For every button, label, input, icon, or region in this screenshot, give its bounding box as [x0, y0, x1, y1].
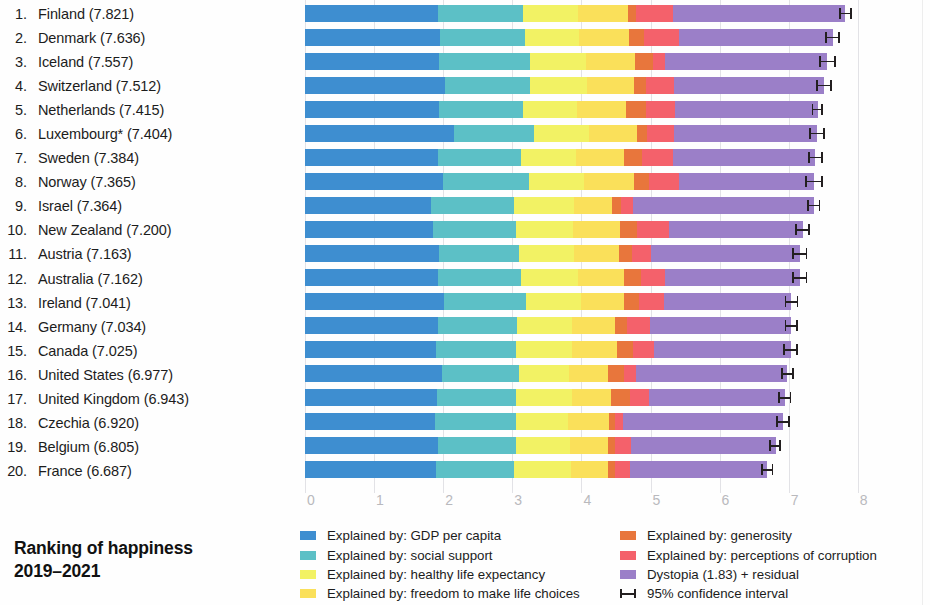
bar-segment-generosity [617, 341, 632, 358]
confidence-interval-marker [761, 464, 773, 475]
bar-segment-freedom [572, 389, 611, 406]
gridline [305, 0, 306, 481]
bar-segment-health [523, 5, 578, 22]
gridline [858, 0, 859, 481]
bar-segment-dystopia [633, 197, 813, 214]
bar-segment-social [438, 5, 523, 22]
legend-swatch-gdp [300, 531, 316, 540]
legend-item-freedom: Explained by: freedom to make life choic… [300, 584, 620, 603]
bar-segment-health [517, 317, 572, 334]
bar-segment-social [445, 77, 530, 94]
bar-segment-corruption [630, 389, 649, 406]
ci-cap-right [821, 104, 823, 115]
confidence-interval-marker [808, 152, 823, 163]
confidence-interval-marker [819, 56, 836, 67]
bar-segment-health [523, 101, 578, 118]
figure-title: Ranking of happiness 2019–2021 [14, 537, 193, 584]
bar-segment-gdp [305, 413, 435, 430]
bar-segment-dystopia [665, 269, 800, 286]
ci-cap-left [785, 320, 787, 331]
legend-label: Explained by: social support [327, 548, 493, 563]
confidence-interval-marker [816, 80, 831, 91]
gridline [789, 0, 790, 481]
stacked-bar [305, 101, 858, 118]
stacked-bar [305, 293, 858, 310]
stacked-bar [305, 77, 858, 94]
bar-segment-freedom [572, 341, 617, 358]
gridline [374, 0, 375, 481]
ci-cap-right [772, 464, 774, 475]
ci-cap-left [761, 464, 763, 475]
bar-segment-dystopia [679, 173, 814, 190]
legend-item-health: Explained by: healthy life expectancy [300, 565, 620, 584]
ci-cap-right [806, 272, 808, 283]
rank-number: 18. [0, 415, 38, 431]
confidence-interval-marker [778, 392, 791, 403]
ci-cap-left [792, 248, 794, 259]
bar-segment-generosity [624, 293, 639, 310]
ci-cap-right [819, 200, 821, 211]
ranking-row: 9.Israel (7.364) [0, 194, 300, 218]
stacked-bar [305, 53, 858, 70]
bar-segment-social [438, 437, 516, 454]
bar-segment-gdp [305, 101, 439, 118]
rank-number: 11. [0, 246, 38, 262]
bar-segment-gdp [305, 173, 443, 190]
rank-country-label: Ireland (7.041) [38, 295, 300, 311]
ci-cap-right [790, 392, 792, 403]
bar-segment-corruption [653, 53, 665, 70]
x-tick [651, 481, 652, 493]
ci-cap-left [807, 200, 809, 211]
bar-segment-health [519, 245, 574, 262]
rank-country-label: Australia (7.162) [38, 271, 300, 287]
bar-segment-generosity [634, 77, 646, 94]
rank-country-label: Israel (7.364) [38, 198, 300, 214]
bar-segment-gdp [305, 197, 431, 214]
rank-number: 13. [0, 295, 38, 311]
ci-cap-left [769, 440, 771, 451]
bar-segment-freedom [570, 437, 608, 454]
ci-cap-left [809, 128, 811, 139]
x-tick [581, 481, 582, 493]
bar-segment-generosity [635, 53, 652, 70]
ranking-row: 20.France (6.687) [0, 459, 300, 483]
bar-segment-social [438, 317, 517, 334]
ranking-row: 6.Luxembourg* (7.404) [0, 122, 300, 146]
bar-segment-gdp [305, 437, 438, 454]
ranking-row: 3.Iceland (7.557) [0, 50, 300, 74]
bar-segment-freedom [586, 53, 636, 70]
bar-segment-generosity [612, 197, 622, 214]
bar-segment-dystopia [636, 365, 787, 382]
rank-country-label: Finland (7.821) [38, 6, 300, 22]
bar-segment-social [435, 413, 516, 430]
rank-number: 15. [0, 343, 38, 359]
bar-segment-corruption [615, 413, 623, 430]
rank-number: 7. [0, 150, 38, 166]
bar-segment-social [442, 365, 519, 382]
bar-segment-freedom [569, 365, 608, 382]
ranking-row: 8.Norway (7.365) [0, 170, 300, 194]
rank-country-label: Norway (7.365) [38, 174, 300, 190]
ci-cap-left [839, 8, 841, 19]
rank-country-label: New Zealand (7.200) [38, 222, 300, 238]
bar-segment-health [516, 389, 571, 406]
ranking-row: 7.Sweden (7.384) [0, 146, 300, 170]
stacked-bar [305, 245, 858, 262]
ci-cap-right [779, 440, 781, 451]
bar-segment-corruption [637, 221, 669, 238]
x-tick-label: 8 [860, 492, 868, 508]
legend-column-right: Explained by: generosityExplained by: pe… [620, 526, 925, 604]
stacked-bar [305, 221, 858, 238]
bar-segment-gdp [305, 245, 439, 262]
figure-title-line1: Ranking of happiness [14, 537, 193, 560]
rank-number: 14. [0, 319, 38, 335]
stacked-bar [305, 197, 858, 214]
bar-segment-dystopia [674, 125, 817, 142]
bar-segment-social [439, 101, 523, 118]
x-tick-label: 6 [722, 492, 730, 508]
bar-segment-health [530, 77, 587, 94]
bar-segment-social [444, 293, 526, 310]
bar-segment-generosity [634, 173, 649, 190]
ranking-row: 4.Switzerland (7.512) [0, 74, 300, 98]
legend-swatch-health [300, 570, 316, 579]
